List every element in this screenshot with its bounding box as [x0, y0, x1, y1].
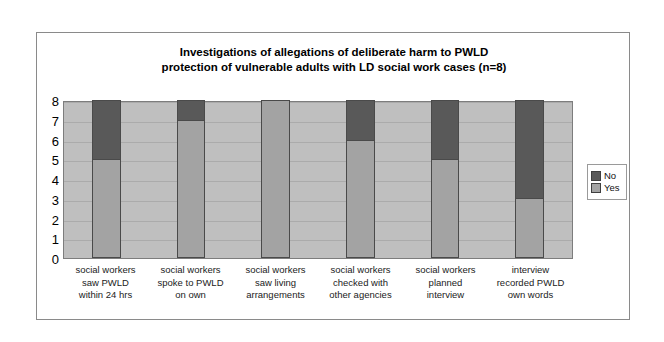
x-axis-label: social workerssaw PWLDwithin 24 hrs	[63, 264, 148, 302]
bar-slot	[318, 102, 403, 258]
legend-swatch-icon	[591, 171, 601, 181]
bar-segment-yes[interactable]	[178, 120, 205, 257]
bar-segment-yes[interactable]	[93, 159, 120, 257]
y-tick-label: 3	[37, 193, 59, 206]
y-tick-label: 4	[37, 174, 59, 187]
bar-segment-no[interactable]	[516, 101, 543, 198]
bar-segment-no[interactable]	[178, 101, 205, 120]
legend: NoYes	[587, 164, 627, 200]
x-axis-label: interviewrecorded PWLDown words	[488, 264, 573, 302]
plot-area	[63, 101, 573, 259]
x-axis-label: social workersspoke to PWLDon own	[148, 264, 233, 302]
x-axis-label: social workerschecked withother agencies	[318, 264, 403, 302]
bar-segment-yes[interactable]	[432, 159, 459, 257]
chart-title-line-1: Investigations of allegations of deliber…	[37, 45, 631, 60]
legend-label: Yes	[604, 183, 620, 193]
bar-segment-no[interactable]	[93, 101, 120, 159]
legend-item[interactable]: Yes	[591, 183, 622, 193]
bar-segment-no[interactable]	[432, 101, 459, 159]
y-tick-label: 6	[37, 134, 59, 147]
bar-stack[interactable]	[261, 100, 290, 258]
bar-stack[interactable]	[515, 100, 544, 258]
bar-stack[interactable]	[177, 100, 206, 258]
bar-stack[interactable]	[92, 100, 121, 258]
legend-item[interactable]: No	[591, 171, 622, 181]
chart-title-line-2: protection of vulnerable adults with LD …	[37, 60, 631, 75]
y-tick-label: 7	[37, 114, 59, 127]
y-tick-label: 1	[37, 233, 59, 246]
chart-title: Investigations of allegations of deliber…	[37, 45, 631, 75]
bar-slot	[64, 102, 149, 258]
y-tick-label: 0	[37, 253, 59, 266]
bar-slot	[149, 102, 234, 258]
bar-segment-no[interactable]	[347, 101, 374, 140]
bar-segment-yes[interactable]	[347, 140, 374, 257]
bar-slot	[233, 102, 318, 258]
bar-slot	[403, 102, 488, 258]
y-tick-label: 5	[37, 154, 59, 167]
bar-segment-yes[interactable]	[516, 198, 543, 257]
bar-slot	[487, 102, 572, 258]
bar-stack[interactable]	[431, 100, 460, 258]
bar-stack[interactable]	[346, 100, 375, 258]
bar-segment-yes[interactable]	[262, 101, 289, 257]
y-tick-label: 8	[37, 95, 59, 108]
legend-label: No	[604, 171, 616, 181]
y-tick-label: 2	[37, 213, 59, 226]
bars-layer	[64, 102, 572, 258]
x-axis-label: social workerssaw livingarrangements	[233, 264, 318, 302]
x-axis: social workerssaw PWLDwithin 24 hrssocia…	[63, 264, 573, 302]
y-axis: 876543210	[37, 95, 59, 265]
legend-swatch-icon	[591, 183, 601, 193]
x-axis-label: social workersplannedinterview	[403, 264, 488, 302]
chart-frame: Investigations of allegations of deliber…	[36, 32, 630, 320]
